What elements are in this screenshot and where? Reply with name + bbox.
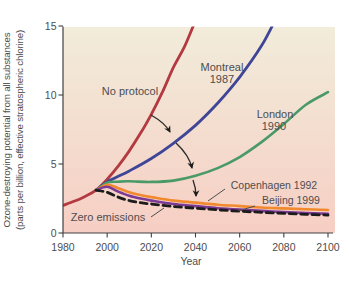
ozone-protocols-chart: 1980200020202040206020802100 051015 No p… [0,0,349,283]
x-tick-label: 1980 [51,241,75,253]
label-london: London [257,108,294,120]
x-tick-label: 2060 [228,241,252,253]
y-tick-label: 5 [51,158,57,170]
x-axis-title: Year [180,255,202,267]
label-montreal: Montreal [201,61,244,73]
label-beijing: Beijing 1999 [262,194,320,206]
y-axis-title-line1: Ozone-destroying potential from all subs… [1,32,12,227]
x-tick-label: 2000 [95,241,119,253]
y-axis-title-line2: (parts per billion, effective stratosphe… [14,30,25,230]
y-tick-label: 0 [51,227,57,239]
x-axis-ticks: 1980200020202040206020802100 [51,233,340,253]
label-copenhagen: Copenhagen 1992 [231,179,318,191]
label-zero-emissions: Zero emissions [71,211,146,223]
x-tick-label: 2040 [184,241,208,253]
x-tick-label: 2020 [140,241,164,253]
y-axis-ticks: 051015 [45,20,63,239]
x-tick-label: 2100 [316,241,340,253]
label-montreal-year: 1987 [210,73,234,85]
chart-svg: 1980200020202040206020802100 051015 No p… [0,0,349,283]
y-tick-label: 10 [45,89,57,101]
x-tick-label: 2080 [272,241,296,253]
y-tick-label: 15 [45,20,57,32]
label-no-protocol: No protocol [102,85,158,97]
label-london-year: 1990 [262,120,286,132]
